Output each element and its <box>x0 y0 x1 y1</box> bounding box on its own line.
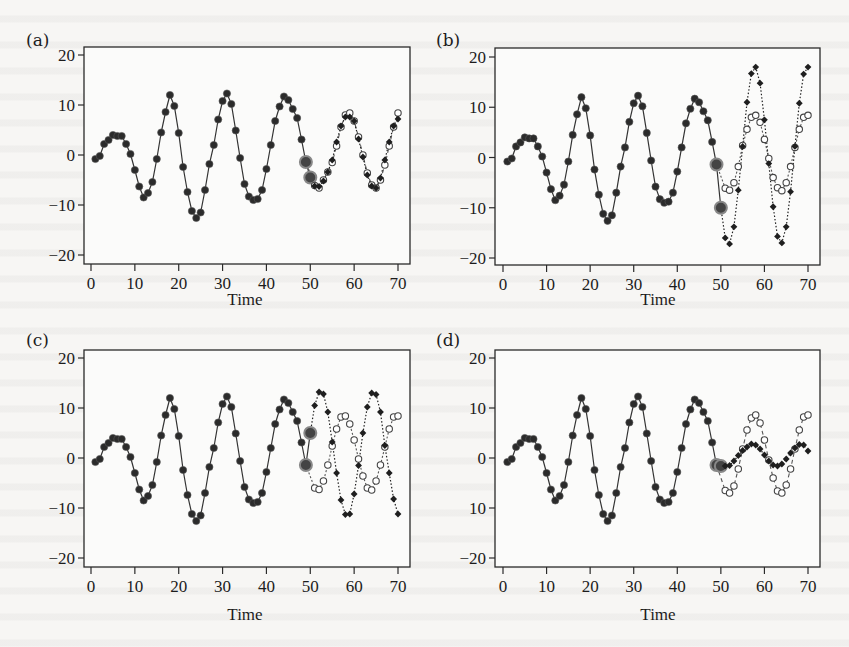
observed-point <box>587 432 594 439</box>
observed-point <box>543 469 550 476</box>
actual-point-open <box>770 475 776 481</box>
observed-point <box>617 463 624 470</box>
x-axis-title: Time <box>598 605 718 625</box>
observed-point <box>648 457 655 464</box>
actual-point-open <box>779 490 785 496</box>
plot-area: 2010010−20010203040506070 <box>0 0 849 647</box>
observed-point <box>687 406 694 413</box>
observed-point <box>669 489 676 496</box>
observed-point <box>595 491 602 498</box>
observed-point <box>639 403 646 410</box>
observed-point <box>608 512 615 519</box>
observed-point <box>704 417 711 424</box>
x-tick-label: 40 <box>669 577 686 596</box>
observed-point <box>652 483 659 490</box>
actual-point-open <box>805 412 811 418</box>
y-tick-label: −20 <box>459 549 486 568</box>
y-tick-label: 20 <box>469 349 486 368</box>
observed-point <box>565 458 572 465</box>
observed-point <box>700 408 707 415</box>
actual-point-open <box>731 483 737 489</box>
y-tick-label: 10 <box>469 499 486 518</box>
observed-point <box>643 430 650 437</box>
x-tick-label: 70 <box>800 577 817 596</box>
observed-point <box>547 486 554 493</box>
x-tick-label: 10 <box>538 577 555 596</box>
y-tick-label: 0 <box>478 449 487 468</box>
observed-point <box>674 468 681 475</box>
observed-point <box>695 399 702 406</box>
observed-point <box>621 444 628 451</box>
actual-point-open <box>761 437 767 443</box>
observed-point <box>709 439 716 446</box>
x-tick-label: 0 <box>499 577 508 596</box>
figure-4-panel-forecast: (a) 20100−10−20010203040506070 Time (b) … <box>0 0 849 647</box>
actual-point-open <box>735 466 741 472</box>
observed-point <box>560 481 567 488</box>
panel-d: (d) 2010010−20010203040506070 Time <box>0 0 849 647</box>
x-tick-label: 60 <box>756 577 773 596</box>
observed-point <box>665 498 672 505</box>
observed-point <box>600 510 607 517</box>
observed-point <box>556 492 563 499</box>
observed-point <box>613 489 620 496</box>
observed-point <box>508 455 515 462</box>
observed-point <box>578 394 585 401</box>
observed-point <box>573 411 580 418</box>
actual-point-open <box>787 466 793 472</box>
y-tick-label: 10 <box>469 399 486 418</box>
actual-point-open <box>726 490 732 496</box>
actual-point-open <box>757 420 763 426</box>
observed-point <box>682 420 689 427</box>
observed-point <box>530 435 537 442</box>
observed-point <box>569 432 576 439</box>
observed-point <box>678 444 685 451</box>
actual-point-open <box>796 427 802 433</box>
observed-point <box>630 400 637 407</box>
x-tick-label: 30 <box>625 577 642 596</box>
x-tick-label: 50 <box>712 577 729 596</box>
observed-point <box>634 393 641 400</box>
x-tick-label: 20 <box>582 577 599 596</box>
actual-point-open <box>783 482 789 488</box>
observed-point <box>626 419 633 426</box>
actual-point-open <box>753 412 759 418</box>
observed-point <box>534 443 541 450</box>
actual-point-open <box>744 427 750 433</box>
observed-point <box>539 453 546 460</box>
observed-point <box>582 405 589 412</box>
observed-point <box>591 466 598 473</box>
